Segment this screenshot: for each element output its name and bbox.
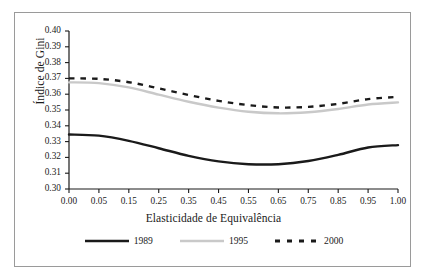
legend-label: 1995: [229, 235, 248, 246]
legend-label: 1989: [134, 235, 153, 246]
x-tick-label: 0.75: [291, 196, 325, 206]
y-tick-label: 0.31: [27, 167, 61, 177]
x-tick-marks: [69, 189, 398, 193]
x-tick-label: 1.00: [381, 196, 415, 206]
series-line-2000: [69, 78, 398, 107]
legend-swatch-1989: [84, 236, 130, 246]
x-tick-label: 0.00: [52, 196, 86, 206]
y-tick-label: 0.32: [27, 151, 61, 161]
legend-swatch-2000: [274, 236, 320, 246]
x-tick-label: 0.55: [231, 196, 265, 206]
legend-item-1995[interactable]: 1995: [179, 235, 248, 246]
legend-label: 2000: [324, 235, 343, 246]
y-tick-label: 0.39: [27, 41, 61, 51]
figure: Índice de Gini Elasticidade de Equivalên…: [0, 0, 425, 280]
y-tick-label: 0.36: [27, 88, 61, 98]
x-tick-label: 0.15: [112, 196, 146, 206]
x-tick-label: 0.35: [172, 196, 206, 206]
x-tick-label: 0.65: [261, 196, 295, 206]
series-line-1989: [69, 134, 398, 164]
figure-border: Índice de Gini Elasticidade de Equivalên…: [14, 12, 411, 267]
y-tick-label: 0.30: [27, 183, 61, 193]
y-tick-label: 0.40: [27, 25, 61, 35]
series-line-1995: [69, 82, 398, 113]
y-tick-label: 0.34: [27, 120, 61, 130]
legend-item-1989[interactable]: 1989: [84, 235, 153, 246]
series-lines: [69, 78, 398, 164]
x-tick-label: 0.45: [202, 196, 236, 206]
y-tick-label: 0.35: [27, 104, 61, 114]
y-tick-label: 0.37: [27, 72, 61, 82]
x-tick-label: 0.05: [82, 196, 116, 206]
legend-swatch-1995: [179, 236, 225, 246]
plot-area: [15, 13, 412, 268]
x-tick-label: 0.95: [351, 196, 385, 206]
y-tick-label: 0.33: [27, 136, 61, 146]
y-tick-label: 0.38: [27, 57, 61, 67]
x-tick-label: 0.85: [321, 196, 355, 206]
legend-item-2000[interactable]: 2000: [274, 235, 343, 246]
chart-legend: 198919952000: [15, 235, 412, 246]
x-tick-label: 0.25: [142, 196, 176, 206]
